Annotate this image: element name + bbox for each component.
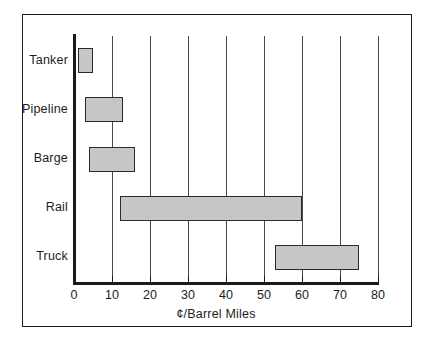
x-tick-20 [150,276,151,283]
x-tick-50 [264,276,265,283]
x-tick-70 [340,276,341,283]
x-tick-40 [226,276,227,283]
x-tick-label-40: 40 [219,288,233,302]
category-label-rail: Rail [46,200,68,214]
bar-truck [275,245,359,270]
bar-tanker [78,48,93,73]
category-label-truck: Truck [36,249,68,263]
gridline-20 [150,36,151,282]
category-axis-labels: TankerPipelineBargeRailTruck [0,36,68,282]
x-tick-0 [74,276,75,283]
gridline-80 [378,36,379,282]
x-tick-label-50: 50 [257,288,271,302]
x-axis-title: ¢/Barrel Miles [0,307,432,321]
y-axis-line [73,34,76,284]
category-label-tanker: Tanker [29,53,68,67]
plot-area [74,36,378,282]
x-tick-10 [112,276,113,283]
x-tick-60 [302,276,303,283]
bar-pipeline [85,97,123,122]
x-tick-label-60: 60 [295,288,309,302]
x-tick-label-30: 30 [181,288,195,302]
bar-rail [120,196,302,221]
x-tick-label-10: 10 [105,288,119,302]
x-tick-30 [188,276,189,283]
chart-figure: TankerPipelineBargeRailTruck 01020304050… [0,0,432,346]
x-tick-80 [378,276,379,283]
bar-barge [89,147,135,172]
x-tick-label-0: 0 [71,288,78,302]
x-tick-label-20: 20 [143,288,157,302]
x-tick-label-70: 70 [333,288,347,302]
category-label-barge: Barge [34,151,68,165]
gridline-30 [188,36,189,282]
category-label-pipeline: Pipeline [22,102,68,116]
x-tick-label-80: 80 [371,288,385,302]
gridline-50 [264,36,265,282]
gridline-40 [226,36,227,282]
